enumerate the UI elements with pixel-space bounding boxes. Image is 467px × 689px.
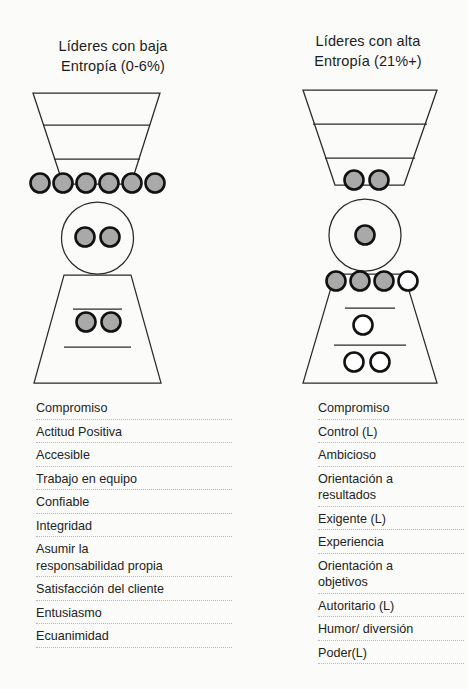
marker-filled <box>345 171 364 190</box>
row-separator <box>318 506 464 507</box>
right-bottom-markers <box>345 353 390 372</box>
left-lower-markers <box>77 313 121 332</box>
list-item: Entusiasmo <box>36 605 232 627</box>
left-neck-markers <box>31 174 165 193</box>
list-item: Trabajo en equipo <box>36 471 232 493</box>
row-separator <box>36 623 232 624</box>
row-separator <box>318 616 464 617</box>
right-band-marker <box>354 316 373 335</box>
list-item: Humor/ diversión <box>318 621 464 643</box>
marker-filled <box>375 272 394 291</box>
marker-filled <box>54 174 73 193</box>
attribute-label: Integridad <box>36 518 232 535</box>
list-item: Integridad <box>36 518 232 540</box>
marker-empty <box>354 316 373 335</box>
list-item: Autoritario (L) <box>318 598 464 620</box>
list-item: Orientación a resultados <box>318 471 464 509</box>
attribute-label: Orientación a objetivos <box>318 558 464 591</box>
attribute-list-right: Compromiso Control (L) Ambicioso Orienta… <box>318 400 464 668</box>
list-item: Exigente (L) <box>318 511 464 533</box>
row-separator <box>318 419 464 420</box>
marker-filled <box>146 174 165 193</box>
marker-empty <box>371 353 390 372</box>
attribute-label: Autoritario (L) <box>318 598 464 615</box>
row-separator <box>318 663 464 664</box>
row-separator <box>36 600 232 601</box>
list-item: Accesible <box>36 447 232 469</box>
list-item: Poder(L) <box>318 645 464 667</box>
attribute-label: Compromiso <box>36 400 232 417</box>
marker-filled <box>77 174 96 193</box>
row-separator <box>318 529 464 530</box>
marker-filled <box>123 174 142 193</box>
row-separator <box>36 489 232 490</box>
marker-filled <box>351 272 370 291</box>
right-neck-markers <box>345 171 389 190</box>
attribute-label: Accesible <box>36 447 232 464</box>
list-item: Compromiso <box>318 400 464 422</box>
right-center-markers <box>356 226 375 245</box>
marker-empty <box>399 272 418 291</box>
row-separator <box>36 513 232 514</box>
attribute-label: Exigente (L) <box>318 511 464 528</box>
list-item: Control (L) <box>318 424 464 446</box>
attribute-label: Trabajo en equipo <box>36 471 232 488</box>
row-separator <box>318 466 464 467</box>
marker-filled <box>370 171 389 190</box>
left-upper-funnel <box>33 93 160 184</box>
row-separator <box>318 640 464 641</box>
attribute-list-left: Compromiso Actitud Positiva Accesible Tr… <box>36 400 232 652</box>
attribute-label: Confiable <box>36 494 232 511</box>
list-item: Experiencia <box>318 534 464 556</box>
list-item: Compromiso <box>36 400 232 422</box>
row-separator <box>36 419 232 420</box>
attribute-label: Humor/ diversión <box>318 621 464 638</box>
marker-filled <box>100 174 119 193</box>
attribute-label: Control (L) <box>318 424 464 441</box>
hourglass-diagrams <box>0 0 467 400</box>
right-upper-funnel <box>303 90 437 185</box>
attribute-label: Ecuanimidad <box>36 628 232 645</box>
attribute-label: Orientación a resultados <box>318 471 464 504</box>
row-separator <box>36 536 232 537</box>
marker-filled <box>101 228 120 247</box>
attribute-label: Compromiso <box>318 400 464 417</box>
marker-filled <box>102 313 121 332</box>
marker-filled <box>76 228 95 247</box>
list-item: Orientación a objetivos <box>318 558 464 596</box>
figure-canvas: Líderes con baja Entropía (0-6%) Líderes… <box>0 0 467 689</box>
list-item: Satisfacción del cliente <box>36 581 232 603</box>
attribute-label: Entusiasmo <box>36 605 232 622</box>
row-separator <box>36 647 232 648</box>
row-separator <box>36 466 232 467</box>
row-separator <box>318 593 464 594</box>
list-item: Asumir la responsabilidad propia <box>36 541 232 579</box>
list-item: Ambicioso <box>318 447 464 469</box>
left-center-circle <box>62 202 134 274</box>
row-separator <box>318 553 464 554</box>
marker-empty <box>345 353 364 372</box>
attribute-label: Satisfacción del cliente <box>36 581 232 598</box>
row-separator <box>36 576 232 577</box>
left-center-markers <box>76 228 120 247</box>
row-separator <box>318 442 464 443</box>
list-item: Actitud Positiva <box>36 424 232 446</box>
attribute-label: Experiencia <box>318 534 464 551</box>
list-item: Confiable <box>36 494 232 516</box>
attribute-label: Actitud Positiva <box>36 424 232 441</box>
left-lower-funnel <box>34 275 161 383</box>
marker-filled <box>31 174 50 193</box>
attribute-label: Asumir la responsabilidad propia <box>36 541 232 574</box>
attribute-label: Ambicioso <box>318 447 464 464</box>
list-item: Ecuanimidad <box>36 628 232 650</box>
hourglass-left <box>33 93 161 383</box>
marker-filled <box>356 226 375 245</box>
attribute-label: Poder(L) <box>318 645 464 662</box>
row-separator <box>36 442 232 443</box>
marker-filled <box>327 272 346 291</box>
marker-filled <box>77 313 96 332</box>
